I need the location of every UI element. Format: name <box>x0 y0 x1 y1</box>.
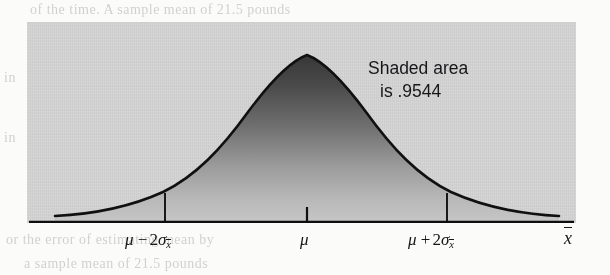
coef-upper: 2 <box>432 230 441 249</box>
curve-shaded-area <box>55 55 559 222</box>
mu-symbol-upper: μ <box>408 230 417 249</box>
mu-symbol-mean: μ <box>300 230 309 249</box>
coef-lower: 2 <box>149 230 158 249</box>
axis-label-lower-bound: μ −2σx <box>125 230 171 250</box>
xbar-symbol: x <box>564 228 572 249</box>
subscript-xbar-upper: x <box>449 239 454 250</box>
shaded-area-annotation-line1: Shaded area <box>368 58 468 79</box>
axis-label-upper-bound: μ +2σx <box>408 230 454 250</box>
subscript-xbar-lower: x <box>166 239 171 250</box>
minus-glyph: − <box>138 230 148 249</box>
mu-symbol-lower: μ <box>125 230 134 249</box>
plus-glyph: + <box>421 230 431 249</box>
shaded-area-annotation-line2: is .9544 <box>380 81 441 102</box>
axis-name-label: x <box>564 228 572 249</box>
axis-label-mean: μ <box>300 230 309 250</box>
scanned-page-background: of the time. A sample mean of 21.5 pound… <box>0 0 610 275</box>
